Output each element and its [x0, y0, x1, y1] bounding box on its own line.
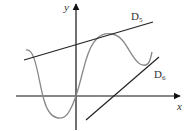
function-curve: [26, 34, 152, 118]
y-axis-label: y: [63, 1, 69, 13]
d6-label: D6: [154, 68, 166, 82]
x-axis-label: x: [176, 100, 182, 112]
tangent-line-d6: [86, 57, 159, 120]
function-diagram: y x D5 D6: [0, 0, 188, 131]
d5-label: D5: [131, 10, 143, 24]
